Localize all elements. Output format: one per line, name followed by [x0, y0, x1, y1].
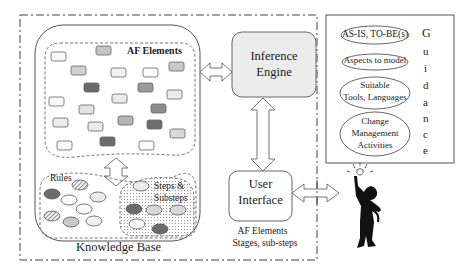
user-interface-label-line2: Interface [229, 194, 292, 208]
ui-caption-line1: AF Elements [225, 226, 300, 236]
guidance-item-aspects: Aspects to model [340, 56, 410, 66]
guidance-title-n: n [423, 112, 429, 124]
guidance-title-c: c [423, 128, 428, 140]
kb-engine-double-arrow [200, 63, 232, 81]
guidance-item-as-is-to-be: AS-IS, TO-BE(s) [340, 29, 410, 39]
guidance-item-change-line2: Management [340, 129, 410, 139]
rules-label: Rules [50, 173, 72, 183]
guidance-item-tools-line1: Suitable [340, 81, 410, 91]
guidance-title-d: d [423, 79, 429, 91]
inference-engine-label-line1: Inference [232, 50, 316, 64]
engine-ui-double-arrow [251, 98, 275, 171]
guidance-item-tools-line2: Tools, Languages [337, 93, 413, 103]
steps-label-line1: Steps & [154, 181, 184, 191]
af-elements-label: AF Elements [127, 45, 182, 56]
guidance-title-u: u [423, 45, 429, 57]
guidance-item-change-line1: Change [340, 117, 410, 127]
ui-user-double-arrow [292, 184, 339, 202]
ui-caption-line2: Stages, sub-steps [225, 238, 305, 248]
steps-label-line2: Substeps [154, 193, 188, 203]
guidance-item-change-line3: Activities [340, 141, 410, 151]
guidance-title-e: e [423, 144, 428, 156]
knowledge-base-title: Knowledge Base [76, 241, 161, 255]
user-interface-label-line1: User [229, 178, 292, 192]
guidance-title-g: G [422, 27, 431, 40]
user-figure-icon [347, 162, 381, 248]
inference-engine-label-line2: Engine [232, 66, 316, 80]
guidance-title-a: a [423, 96, 428, 108]
guidance-title-i: i [424, 62, 427, 74]
